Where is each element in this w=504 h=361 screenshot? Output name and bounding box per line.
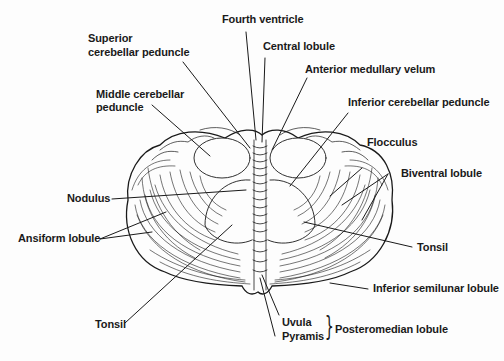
label-inferior-cerebellar-peduncle: Inferior cerebellar peduncle xyxy=(348,96,489,109)
label-nodulus: Nodulus xyxy=(67,192,110,205)
label-pyramis: Pyramis xyxy=(282,330,324,343)
leader-lines xyxy=(100,32,412,336)
left-peduncle-oval xyxy=(194,138,250,178)
right-tonsil-outline xyxy=(268,180,315,243)
label-central-lobule: Central lobule xyxy=(263,40,335,53)
right-peduncle-oval xyxy=(270,138,326,178)
label-anterior-medullary-velum: Anterior medullary velum xyxy=(305,63,435,76)
label-tonsil-left: Tonsil xyxy=(95,318,126,331)
label-flocculus: Flocculus xyxy=(367,136,417,149)
label-inferior-semilunar-lobule: Inferior semilunar lobule xyxy=(373,282,499,295)
label-tonsil-right: Tonsil xyxy=(417,241,448,254)
figure-canvas: Fourth ventricle Superior cerebellar ped… xyxy=(0,0,504,361)
brace-icon: } xyxy=(325,313,334,339)
label-uvula: Uvula xyxy=(282,316,311,329)
left-folia xyxy=(132,160,250,284)
label-superior-cerebellar-peduncle-line1: Superior xyxy=(88,32,132,45)
label-biventral-lobule: Biventral lobule xyxy=(401,167,482,180)
label-fourth-ventricle: Fourth ventricle xyxy=(222,13,304,26)
label-middle-cerebellar-peduncle-line1: Middle cerebellar xyxy=(96,88,184,101)
label-superior-cerebellar-peduncle-line2: cerebellar peduncle xyxy=(88,46,189,59)
cerebellum-drawing xyxy=(0,0,504,361)
label-posteromedian-lobule: Posteromedian lobule xyxy=(335,323,448,336)
label-ansiform-lobule: Ansiform lobule xyxy=(18,232,100,245)
label-middle-cerebellar-peduncle-line2: peduncle xyxy=(96,101,144,114)
right-folia xyxy=(270,160,388,284)
left-tonsil-outline xyxy=(205,180,252,243)
vermis xyxy=(253,140,267,290)
